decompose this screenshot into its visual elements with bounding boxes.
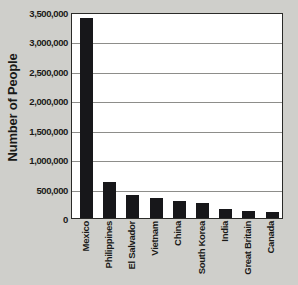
x-axis-tick-label: El Salvador	[125, 221, 138, 283]
y-axis-tick-label: 2,000,000	[16, 96, 68, 107]
y-axis-tick-label: 2,500,000	[16, 66, 68, 77]
bar	[80, 18, 93, 218]
x-axis-tick-text: Canada	[266, 221, 276, 254]
bar	[150, 198, 163, 218]
bar	[173, 201, 186, 218]
bar	[219, 209, 232, 218]
x-axis-tick-label: Mexico	[79, 221, 92, 283]
y-axis-tick-label: 3,000,000	[16, 37, 68, 48]
bar	[266, 212, 279, 218]
x-axis-tick-text: Vietnam	[150, 221, 160, 256]
x-axis-tick-text: El Salvador	[127, 221, 137, 269]
x-axis-tick-text: India	[220, 221, 230, 242]
plot-area	[71, 13, 283, 219]
bar	[103, 182, 116, 218]
y-axis-tick-label: 0	[16, 214, 68, 225]
x-axis-tick-label: Canada	[265, 221, 278, 283]
bar-series	[72, 14, 282, 218]
x-axis-tick-label: Great Britain	[241, 221, 254, 283]
bar	[196, 203, 209, 218]
x-axis-tick-label: Philippines	[102, 221, 115, 283]
bar-chart-figure: Number of People 0500,0001,000,0001,500,…	[0, 0, 298, 285]
y-axis-tick-label: 1,000,000	[16, 155, 68, 166]
y-axis-tick-label: 1,500,000	[16, 125, 68, 136]
x-axis-tick-text: Great Britain	[243, 221, 253, 275]
x-axis-tick-text: Philippines	[104, 221, 114, 268]
y-axis-tick-label: 3,500,000	[16, 8, 68, 19]
x-axis-tick-text: China	[174, 221, 184, 246]
x-axis-tick-label: India	[218, 221, 231, 283]
y-axis-tick-label: 500,000	[16, 184, 68, 195]
x-axis-tick-text: South Korea	[197, 221, 207, 274]
x-axis-tick-label: Vietnam	[149, 221, 162, 283]
x-axis-tick-text: Mexico	[81, 221, 91, 251]
x-axis-tick-label: China	[172, 221, 185, 283]
x-axis-tick-labels: MexicoPhilippinesEl SalvadorVietnamChina…	[71, 221, 283, 285]
bar	[242, 211, 255, 218]
x-axis-tick-label: South Korea	[195, 221, 208, 283]
bar	[126, 195, 139, 218]
y-axis-tick-labels: 0500,0001,000,0001,500,0002,000,0002,500…	[18, 0, 70, 230]
